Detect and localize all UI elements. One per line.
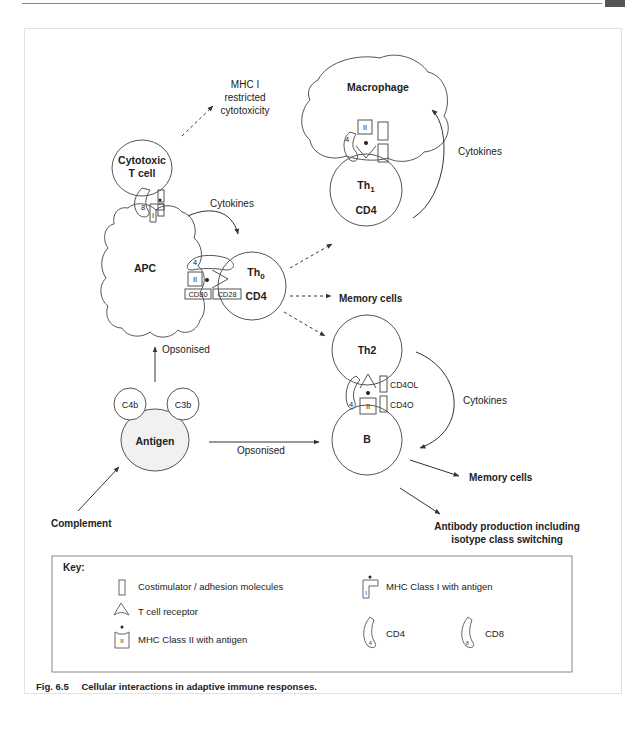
- immune-response-diagram: Cytotoxic T cell APC Th0 CD4 Macrophage …: [0, 0, 633, 732]
- key-item-label: MHC Class II with antigen: [138, 634, 247, 645]
- macrophage-cell: [302, 55, 449, 161]
- cd40-label: CD4O: [390, 400, 414, 410]
- t-cell-receptor-th2: [360, 374, 376, 388]
- mhc1-restricted-label-2: restricted: [224, 92, 265, 103]
- costimulator: [378, 122, 388, 140]
- cd28-label: CD28: [217, 290, 236, 299]
- b-label: B: [363, 433, 371, 445]
- figure-caption: Fig. 6.5 Cellular interactions in adapti…: [36, 681, 317, 692]
- macrophage-label: Macrophage: [347, 81, 409, 93]
- apc-label: APC: [134, 262, 157, 274]
- key-item-label: MHC Class I with antigen: [386, 581, 493, 592]
- antigen-dot: [205, 278, 209, 282]
- figure-number: Fig. 6.5: [36, 681, 69, 692]
- cytokines-label-macrophage: Cytokines: [458, 146, 502, 157]
- c4b-label: C4b: [122, 400, 139, 410]
- opsonised-label-up: Opsonised: [162, 344, 210, 355]
- key-item-label: CD8: [485, 628, 504, 639]
- th2-label: Th2: [358, 344, 377, 356]
- cd4-num-th2: 4: [349, 400, 353, 409]
- th0-cd4-label: CD4: [245, 290, 266, 302]
- th0-label: Th0: [247, 266, 265, 281]
- mhc1-restricted-label-1: MHC I: [231, 79, 259, 90]
- cd40l-molecule: [380, 376, 387, 392]
- complement-label: Complement: [51, 518, 112, 529]
- arrow-b-antibody: [400, 488, 440, 514]
- c3b-label: C3b: [175, 400, 192, 410]
- memory-cells-label-1: Memory cells: [339, 293, 403, 304]
- antibody-label-2: isotype class switching: [451, 534, 563, 545]
- key-title: Key:: [63, 562, 85, 573]
- mhc1-restricted-label-3: cytotoxicity: [221, 105, 270, 116]
- t-cell-receptor-th0: [212, 270, 228, 288]
- arrow-b-memory: [410, 460, 459, 476]
- antibody-label-1: Antibody production including: [434, 521, 580, 532]
- antigen-dot: [364, 141, 368, 145]
- cd80-label: CD80: [188, 290, 207, 299]
- key-item-label: T cell receptor: [138, 606, 198, 617]
- memory-cells-label-2: Memory cells: [469, 472, 533, 483]
- arrow-complement: [78, 467, 119, 511]
- svg-text:II: II: [120, 638, 124, 644]
- cd8-num: 8: [141, 203, 145, 212]
- cytokines-label-th2: Cytokines: [463, 395, 507, 406]
- arrow-th0-th1: [290, 244, 332, 268]
- key-item-label: CD4: [386, 628, 405, 639]
- opsonised-label-right: Opsonised: [237, 445, 285, 456]
- arrow-th0-th2: [284, 312, 325, 336]
- antigen-dot: [366, 391, 370, 395]
- key-item-label: Costimulator / adhesion molecules: [138, 581, 283, 592]
- cd4-num-th1: 4: [345, 135, 349, 144]
- arrow-cytokines-th1-macrophage: [413, 110, 444, 218]
- antigen-label: Antigen: [135, 435, 174, 447]
- cd4-num-th0: 4: [193, 258, 197, 267]
- cytotoxic-label-2: T cell: [129, 167, 156, 179]
- svg-text:4: 4: [369, 640, 372, 646]
- cytotoxic-label-1: Cytotoxic: [118, 154, 166, 166]
- mhc2-mac-label: II: [363, 123, 367, 132]
- arrow-cytokines-th2-b: [416, 352, 454, 448]
- t-cell-receptor-th1: [356, 146, 376, 158]
- svg-text:8: 8: [466, 640, 469, 646]
- mhc2-b-label: II: [366, 402, 370, 411]
- th1-label: Th1: [357, 179, 375, 194]
- th1-cd4-label: CD4: [355, 204, 376, 216]
- mhc2-apc-label: II: [193, 275, 197, 284]
- th0-cell: [218, 252, 286, 320]
- mhc1-label: I: [152, 211, 154, 220]
- cd40l-label: CD4OL: [390, 380, 419, 390]
- cytokines-label-apc: Cytokines: [210, 198, 254, 209]
- antigen-dot: [159, 199, 162, 202]
- arrow-cytotoxicity: [182, 106, 213, 136]
- key-box: Key: Costimulator / adhesion molecules T…: [52, 556, 572, 672]
- figure-caption-text: Cellular interactions in adaptive immune…: [81, 681, 316, 692]
